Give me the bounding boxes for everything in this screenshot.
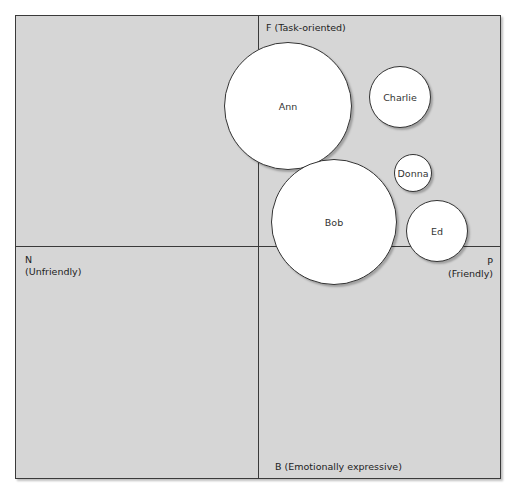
bubble-bob: Bob (271, 159, 397, 285)
bubble-label: Ed (431, 226, 443, 237)
bubble-donna: Donna (394, 154, 432, 192)
axis-label-bottom: B (Emotionally expressive) (275, 461, 402, 473)
bubble-label: Ann (279, 101, 298, 112)
bubble-label: Donna (398, 168, 429, 179)
axis-label-right: P (Friendly) (448, 256, 493, 280)
axis-label-right-text: (Friendly) (448, 268, 493, 280)
bubble-charlie: Charlie (369, 66, 431, 128)
bubble-label: Charlie (383, 92, 417, 103)
bubble-ed: Ed (406, 200, 468, 262)
axis-label-top: F (Task-oriented) (266, 22, 346, 34)
axis-label-left: N (Unfriendly) (25, 254, 81, 278)
axis-label-right-letter: P (448, 256, 493, 268)
axis-label-left-letter: N (25, 254, 81, 266)
bubble-ann: Ann (224, 42, 352, 170)
bubble-label: Bob (325, 217, 343, 228)
axis-label-left-text: (Unfriendly) (25, 266, 81, 278)
